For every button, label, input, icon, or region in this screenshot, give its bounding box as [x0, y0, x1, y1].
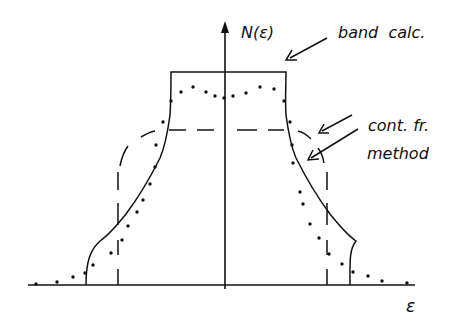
curve-dot [340, 262, 343, 265]
curve-dot [141, 198, 144, 201]
curve-dot [244, 91, 247, 94]
method-label: method [367, 144, 430, 163]
curve-dot [71, 275, 74, 278]
y-axis-arrowhead [221, 21, 229, 33]
curve-dot [153, 165, 156, 168]
band-calc-arrow [286, 38, 327, 60]
curve-dot [213, 94, 216, 97]
curve-dot [290, 143, 293, 146]
curve-dot [308, 222, 311, 225]
cont-fr-arrow-lower [308, 129, 358, 160]
curve-dot [204, 90, 207, 93]
band-calc-curve [86, 72, 356, 285]
curve-dot [351, 270, 354, 273]
curve-dot [405, 281, 408, 284]
curve-dot [169, 99, 172, 102]
cont-fr-arrow-upper [319, 115, 352, 133]
curve-dot [222, 96, 225, 99]
curve-dot [161, 120, 164, 123]
curve-dot [288, 120, 291, 123]
curve-dot [327, 252, 330, 255]
curve-dot [298, 190, 301, 193]
dos-diagram: N(ε) band calc. cont. fr. method ε [0, 0, 460, 331]
cont-fr-dashed-curve [118, 130, 327, 285]
curve-dot [258, 85, 261, 88]
curve-dot [135, 210, 138, 213]
curve-dot [366, 274, 369, 277]
curve-dot [179, 90, 182, 93]
curve-dot [109, 251, 112, 254]
curve-dot [191, 85, 194, 88]
band-calc-label: band calc. [338, 23, 425, 42]
curve-dot [148, 182, 151, 185]
curve-dot [91, 263, 94, 266]
curve-dot [272, 87, 275, 90]
curve-dot [282, 99, 285, 102]
curve-dot [126, 224, 129, 227]
curve-dot [120, 238, 123, 241]
curve-dot [154, 143, 157, 146]
curve-dot [317, 236, 320, 239]
cont-fr-label: cont. fr. [368, 116, 429, 135]
curve-dot [301, 202, 304, 205]
curve-dot [291, 161, 294, 164]
curve-dot [83, 271, 86, 274]
x-axis-label: ε [406, 296, 415, 316]
curve-dot [34, 282, 37, 285]
y-axis-label: N(ε) [241, 23, 274, 42]
curve-dot [231, 94, 234, 97]
curve-dot [380, 279, 383, 282]
curve-dot [55, 280, 58, 283]
